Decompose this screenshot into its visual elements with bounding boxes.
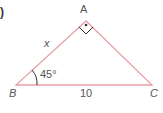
vertex-c-label: C <box>150 88 158 99</box>
side-bc-label: 10 <box>80 88 92 99</box>
vertex-b-label: B <box>9 88 16 99</box>
side-ab-label: x <box>44 38 50 49</box>
right-angle-dot <box>85 24 88 27</box>
right-angle-marker <box>79 27 93 34</box>
angle-arc <box>32 70 37 85</box>
angle-b-label: 45° <box>40 69 57 80</box>
triangle-diagram: ) A B C x 10 45° <box>0 0 163 113</box>
vertex-a-label: A <box>80 4 87 15</box>
